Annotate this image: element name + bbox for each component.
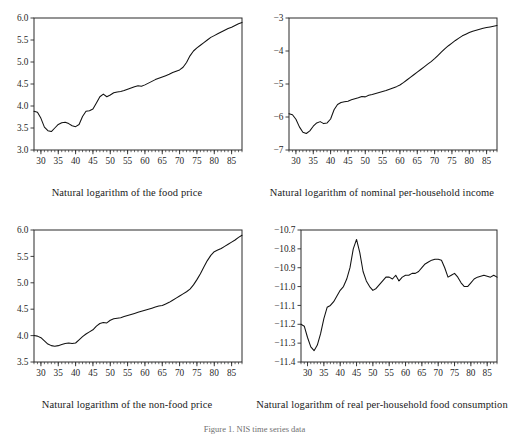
svg-text:60: 60: [395, 156, 405, 166]
svg-text:5.5: 5.5: [17, 252, 29, 262]
svg-text:50: 50: [368, 368, 378, 378]
svg-text:−11.2: −11.2: [274, 319, 296, 329]
svg-text:5.5: 5.5: [17, 35, 29, 45]
svg-text:6.0: 6.0: [17, 13, 29, 23]
figure-caption: Figure 1. NIS time series data: [0, 424, 509, 436]
svg-text:35: 35: [319, 368, 329, 378]
svg-text:−4: −4: [274, 46, 284, 56]
svg-text:85: 85: [483, 368, 493, 378]
svg-text:45: 45: [88, 156, 98, 166]
svg-text:40: 40: [71, 368, 81, 378]
svg-text:−11.1: −11.1: [274, 301, 296, 311]
svg-text:60: 60: [140, 156, 150, 166]
svg-text:30: 30: [303, 368, 313, 378]
svg-text:80: 80: [465, 156, 475, 166]
axis-label-food-consumption: Natural logarithm of real per-household …: [255, 399, 509, 410]
svg-text:55: 55: [385, 368, 395, 378]
svg-text:70: 70: [175, 156, 185, 166]
svg-text:45: 45: [88, 368, 98, 378]
svg-text:4.5: 4.5: [17, 304, 29, 314]
axis-label-nonfood-price: Natural logarithm of the non-food price: [0, 399, 254, 410]
chart-panel-food-consumption: −11.4−11.3−11.2−11.1−11.0−10.9−10.8−10.7…: [255, 214, 509, 418]
svg-text:40: 40: [71, 156, 81, 166]
svg-text:4.0: 4.0: [17, 101, 29, 111]
svg-text:−6: −6: [274, 112, 284, 122]
svg-text:−7: −7: [274, 145, 284, 155]
svg-text:85: 85: [227, 156, 237, 166]
svg-text:40: 40: [336, 368, 346, 378]
svg-text:45: 45: [343, 156, 353, 166]
svg-text:5.0: 5.0: [17, 57, 29, 67]
svg-text:35: 35: [54, 368, 64, 378]
svg-text:30: 30: [36, 368, 46, 378]
svg-text:65: 65: [158, 368, 168, 378]
chart-svg-nominal-income: −7−6−5−4−3303540455055606570758085: [255, 2, 509, 188]
svg-text:50: 50: [106, 156, 116, 166]
svg-text:65: 65: [417, 368, 427, 378]
svg-text:−10.8: −10.8: [274, 244, 296, 254]
axis-label-nominal-income: Natural logarithm of nominal per-househo…: [255, 187, 509, 198]
svg-text:30: 30: [291, 156, 301, 166]
axis-label-food-price: Natural logarithm of the food price: [0, 187, 254, 198]
chart-svg-food-price: 3.03.54.04.55.05.56.03035404550556065707…: [0, 2, 254, 188]
svg-text:50: 50: [361, 156, 371, 166]
svg-text:40: 40: [326, 156, 336, 166]
svg-text:3.5: 3.5: [17, 357, 29, 367]
svg-text:3.0: 3.0: [17, 145, 29, 155]
svg-text:65: 65: [158, 156, 168, 166]
svg-text:35: 35: [54, 156, 64, 166]
svg-text:−11.4: −11.4: [274, 357, 296, 367]
svg-text:55: 55: [378, 156, 388, 166]
chart-panel-food-price: 3.03.54.04.55.05.56.03035404550556065707…: [0, 2, 254, 206]
svg-text:−3: −3: [274, 13, 284, 23]
chart-svg-nonfood-price: 3.54.04.55.05.56.03035404550556065707580…: [0, 214, 254, 400]
svg-text:4.5: 4.5: [17, 79, 29, 89]
svg-text:70: 70: [430, 156, 440, 166]
chart-svg-food-consumption: −11.4−11.3−11.2−11.1−11.0−10.9−10.8−10.7…: [255, 214, 509, 400]
svg-text:85: 85: [227, 368, 237, 378]
svg-text:35: 35: [309, 156, 319, 166]
svg-text:65: 65: [413, 156, 423, 166]
svg-text:75: 75: [447, 156, 457, 166]
svg-text:6.0: 6.0: [17, 225, 29, 235]
svg-text:−11.3: −11.3: [274, 338, 296, 348]
svg-text:80: 80: [210, 156, 220, 166]
svg-text:50: 50: [106, 368, 116, 378]
figure-container: 3.03.54.04.55.05.56.03035404550556065707…: [0, 0, 509, 436]
svg-text:75: 75: [192, 156, 202, 166]
svg-text:80: 80: [210, 368, 220, 378]
svg-text:5.0: 5.0: [17, 278, 29, 288]
svg-text:70: 70: [175, 368, 185, 378]
svg-text:30: 30: [36, 156, 46, 166]
svg-text:55: 55: [123, 156, 133, 166]
svg-text:4.0: 4.0: [17, 331, 29, 341]
svg-text:75: 75: [450, 368, 460, 378]
svg-text:60: 60: [140, 368, 150, 378]
svg-text:−5: −5: [274, 79, 284, 89]
svg-text:45: 45: [352, 368, 362, 378]
svg-text:85: 85: [482, 156, 492, 166]
svg-text:80: 80: [466, 368, 476, 378]
svg-text:−11.0: −11.0: [274, 282, 296, 292]
svg-text:−10.9: −10.9: [274, 263, 296, 273]
svg-text:3.5: 3.5: [17, 123, 29, 133]
svg-text:−10.7: −10.7: [274, 225, 296, 235]
svg-text:70: 70: [434, 368, 444, 378]
svg-text:60: 60: [401, 368, 411, 378]
svg-text:75: 75: [192, 368, 202, 378]
svg-text:55: 55: [123, 368, 133, 378]
chart-panel-nominal-income: −7−6−5−4−3303540455055606570758085 Natur…: [255, 2, 509, 206]
chart-panel-nonfood-price: 3.54.04.55.05.56.03035404550556065707580…: [0, 214, 254, 418]
